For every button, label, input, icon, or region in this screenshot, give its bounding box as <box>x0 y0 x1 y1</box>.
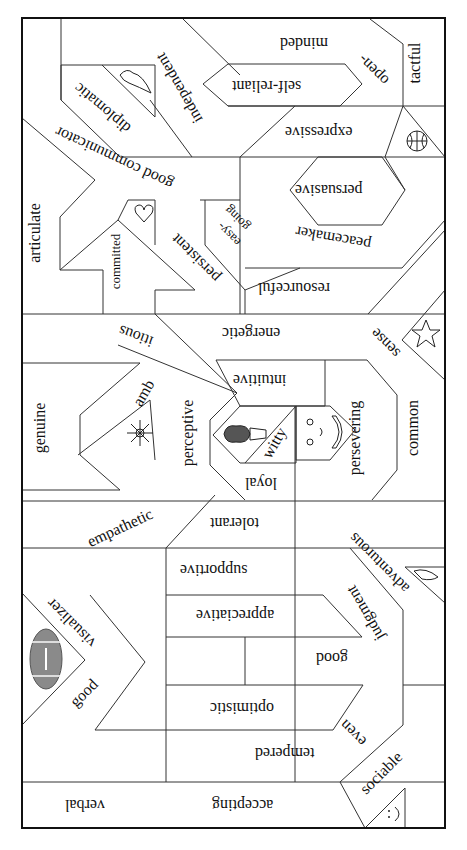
word-tolerant: tolerant <box>210 515 259 531</box>
word-supportive: supportive <box>180 562 248 578</box>
word-intuitive: intuitive <box>233 372 286 388</box>
word-accepting: accepting <box>212 797 273 813</box>
word-self-reliant: self-reliant <box>232 78 301 94</box>
word-energetic: energetic <box>222 325 280 341</box>
word-tempered: tempered <box>255 745 315 761</box>
word-verbal: verbal <box>65 797 105 813</box>
football-icon <box>28 628 64 690</box>
word-expressive: expressive <box>285 124 353 140</box>
star-icon <box>410 318 442 350</box>
heart-icon <box>133 202 155 224</box>
word-resourceful: resourceful <box>258 280 330 296</box>
ice-cream-cone-icon <box>222 420 267 448</box>
word-persuasive: persuasive <box>295 182 363 198</box>
word-good-judgment: good <box>316 650 348 666</box>
dolphin-icon <box>412 567 442 587</box>
smiley-face-icon <box>300 412 348 452</box>
word-common: common <box>405 400 421 456</box>
small-smiley-icon <box>385 805 405 823</box>
word-perceptive: perceptive <box>180 400 196 467</box>
word-loyal: loyal <box>245 475 277 491</box>
word-tactful: tactful <box>407 43 423 84</box>
word-genuine: genuine <box>32 403 48 454</box>
word-appreciative: appreciative <box>196 607 274 623</box>
word-puzzle: tactful open- minded self-reliant indepe… <box>0 0 467 850</box>
word-optimistic: optimistic <box>210 700 274 716</box>
flower-icon <box>125 418 155 448</box>
basketball-icon <box>406 130 428 152</box>
word-committed: committed <box>109 234 122 290</box>
word-minded: minded <box>280 35 328 51</box>
bird-icon <box>115 65 155 95</box>
word-persevering: persevering <box>347 401 363 476</box>
word-articulate: articulate <box>27 203 43 263</box>
